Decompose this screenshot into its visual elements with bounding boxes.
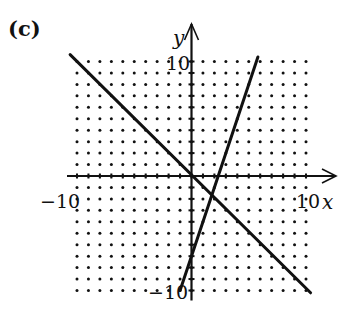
grid-dot xyxy=(121,278,124,281)
grid-dot xyxy=(201,243,204,246)
grid-dot xyxy=(282,255,285,258)
grid-dot xyxy=(167,129,170,132)
x-axis-label: x xyxy=(322,192,333,212)
grid-dot xyxy=(293,71,296,74)
grid-dot xyxy=(121,83,124,86)
grid-dot xyxy=(282,232,285,235)
grid-dot xyxy=(121,71,124,74)
grid-dot xyxy=(201,152,204,155)
grid-dot xyxy=(236,71,239,74)
grid-dot xyxy=(270,71,273,74)
grid-dot xyxy=(293,266,296,269)
grid-dot xyxy=(87,186,90,189)
grid-dot xyxy=(305,94,308,97)
grid-dot xyxy=(270,278,273,281)
grid-dot xyxy=(224,117,227,120)
grid-dot xyxy=(247,220,250,223)
grid-dot xyxy=(76,83,79,86)
grid-dot xyxy=(247,243,250,246)
grid-dot xyxy=(110,163,113,166)
grid-dot xyxy=(224,129,227,132)
grid-dot xyxy=(305,255,308,258)
grid-dot xyxy=(133,232,136,235)
grid-dot xyxy=(213,289,216,292)
grid-dot xyxy=(133,220,136,223)
grid-dot xyxy=(87,117,90,120)
grid-dot xyxy=(156,152,159,155)
grid-dot xyxy=(110,243,113,246)
grid-dot xyxy=(87,83,90,86)
grid-dot xyxy=(201,106,204,109)
grid-dot xyxy=(110,83,113,86)
grid-dot xyxy=(110,186,113,189)
grid-dot xyxy=(110,152,113,155)
grid-dot xyxy=(305,278,308,281)
grid-dot xyxy=(201,232,204,235)
grid-dot xyxy=(259,71,262,74)
grid-dot xyxy=(236,83,239,86)
grid-dot xyxy=(167,140,170,143)
grid-dot xyxy=(133,289,136,292)
grid-dot xyxy=(259,163,262,166)
grid-dot xyxy=(247,255,250,258)
grid-dot xyxy=(179,140,182,143)
grid-dot xyxy=(87,209,90,212)
grid-dot xyxy=(179,209,182,212)
grid-dot xyxy=(144,266,147,269)
grid-dot xyxy=(98,140,101,143)
grid-dot xyxy=(76,278,79,281)
grid-dot xyxy=(224,220,227,223)
grid-dot xyxy=(156,163,159,166)
grid-dot xyxy=(121,220,124,223)
y-tick-min: −10 xyxy=(148,283,188,302)
grid-dot xyxy=(293,106,296,109)
grid-dot xyxy=(87,197,90,200)
grid-dot xyxy=(259,255,262,258)
grid-dot xyxy=(133,94,136,97)
grid-dot xyxy=(293,83,296,86)
grid-dot xyxy=(282,243,285,246)
grid-dot xyxy=(247,140,250,143)
grid-dot xyxy=(293,117,296,120)
grid-dot xyxy=(259,289,262,292)
grid-dot xyxy=(282,94,285,97)
grid-dot xyxy=(87,255,90,258)
grid-dot xyxy=(270,220,273,223)
grid-dot xyxy=(247,266,250,269)
grid-dot xyxy=(236,129,239,132)
grid-dot xyxy=(213,243,216,246)
grid-dot xyxy=(144,243,147,246)
grid-dot xyxy=(156,60,159,63)
grid-dot xyxy=(282,83,285,86)
grid-dot xyxy=(305,117,308,120)
grid-dot xyxy=(87,152,90,155)
grid-dot xyxy=(167,186,170,189)
grid-dot xyxy=(270,117,273,120)
grid-dot xyxy=(282,129,285,132)
grid-dot xyxy=(224,83,227,86)
grid-dot xyxy=(76,255,79,258)
grid-dot xyxy=(179,106,182,109)
grid-dot xyxy=(156,243,159,246)
grid-dot xyxy=(98,209,101,212)
grid-dot xyxy=(236,94,239,97)
grid-dot xyxy=(293,255,296,258)
grid-dot xyxy=(201,278,204,281)
grid-dot xyxy=(224,278,227,281)
grid-dot xyxy=(293,129,296,132)
grid-dot xyxy=(76,243,79,246)
grid-dot xyxy=(133,266,136,269)
grid-dot xyxy=(87,60,90,63)
grid-dot xyxy=(293,243,296,246)
grid-dot xyxy=(305,60,308,63)
grid-dot xyxy=(282,197,285,200)
grid-dot xyxy=(167,106,170,109)
graph-figure: (c) y x 10 −10 −10 10 xyxy=(0,0,342,327)
grid-dot xyxy=(201,83,204,86)
grid-dot xyxy=(121,209,124,212)
grid-dot xyxy=(144,278,147,281)
grid-dot xyxy=(144,94,147,97)
grid-dot xyxy=(179,152,182,155)
grid-dot xyxy=(293,289,296,292)
grid-dot xyxy=(98,163,101,166)
